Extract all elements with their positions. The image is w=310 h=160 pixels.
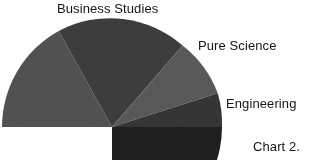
chart-figure: Business Studies Pure Science Engineerin… (0, 0, 310, 160)
pie-label-business-studies: Business Studies (57, 1, 158, 16)
pie-label-pure-science: Pure Science (198, 38, 277, 53)
pie-slice-unlabeled-dark (112, 127, 222, 160)
pie-chart (0, 0, 310, 160)
pie-slices (2, 18, 222, 160)
chart-caption: Chart 2. (253, 139, 300, 154)
pie-label-engineering: Engineering (226, 96, 297, 111)
